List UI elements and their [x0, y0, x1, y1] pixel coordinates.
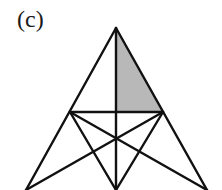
left-mid-to-bottom-center — [70, 112, 116, 190]
right-mid-to-bottom-center — [116, 112, 163, 190]
triangle-diagram — [0, 0, 222, 190]
